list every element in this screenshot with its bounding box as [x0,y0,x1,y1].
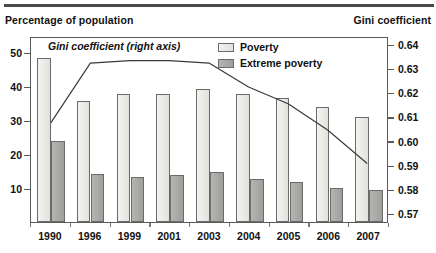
y-axis-tick-right-0.57 [388,214,394,215]
legend-label-poverty: Poverty [240,41,279,53]
legend-label-extreme-poverty: Extreme poverty [240,57,322,69]
x-axis-tick-0 [30,223,31,227]
y-axis-tick-right-0.64 [388,45,394,46]
y-axis-label-left-40: 40 [4,82,22,93]
y-axis-tick-right-0.59 [388,166,394,167]
x-axis-label-1990: 1990 [30,231,70,242]
y-axis-tick-left-20 [24,155,30,156]
legend-swatch-extreme-poverty-icon [218,59,234,68]
y-axis-tick-right-0.58 [388,190,394,191]
x-axis-label-2003: 2003 [189,231,229,242]
y-axis-tick-left-50 [24,53,30,54]
left-axis-title: Percentage of population [5,14,133,26]
y-axis-label-right-0.61: 0.61 [398,112,418,123]
top-divider-rule [4,4,434,7]
x-axis-tick-3 [149,223,150,227]
x-axis-tick-7 [308,223,309,227]
gini-line-layer [31,38,387,222]
legend-item-poverty: Poverty [218,40,322,54]
x-axis-tick-5 [229,223,230,227]
x-axis-tick-9 [388,223,389,227]
chart-legend: Poverty Extreme poverty [218,40,322,72]
y-axis-label-right-0.57: 0.57 [398,209,418,220]
y-axis-tick-right-0.63 [388,69,394,70]
x-axis-label-2004: 2004 [229,231,269,242]
x-axis-tick-4 [189,223,190,227]
x-axis-label-2001: 2001 [149,231,189,242]
legend-swatch-poverty-icon [218,43,234,52]
x-axis-tick-2 [110,223,111,227]
x-axis-label-2006: 2006 [308,231,348,242]
y-axis-label-right-0.59: 0.59 [398,161,418,172]
x-axis-tick-8 [348,223,349,227]
y-axis-label-right-0.58: 0.58 [398,185,418,196]
legend-item-extreme-poverty: Extreme poverty [218,56,322,70]
y-axis-tick-right-0.60 [388,141,394,142]
y-axis-label-left-10: 10 [4,184,22,195]
x-axis-label-2005: 2005 [269,231,309,242]
y-axis-label-left-50: 50 [4,48,22,59]
x-axis-tick-6 [269,223,270,227]
y-axis-label-right-0.60: 0.60 [398,137,418,148]
y-axis-label-right-0.62: 0.62 [398,88,418,99]
gini-line-annotation: Gini coefficient (right axis) [48,40,180,52]
y-axis-label-left-30: 30 [4,116,22,127]
plot-area [30,37,388,223]
y-axis-tick-left-40 [24,87,30,88]
y-axis-tick-left-30 [24,121,30,122]
y-axis-tick-right-0.61 [388,117,394,118]
x-axis-tick-1 [70,223,71,227]
y-axis-label-left-20: 20 [4,150,22,161]
gini-coefficient-line [51,61,367,164]
x-axis-label-1996: 1996 [70,231,110,242]
y-axis-label-right-0.64: 0.64 [398,40,418,51]
x-axis-label-2007: 2007 [348,231,388,242]
right-axis-title: Gini coefficient [354,14,431,26]
y-axis-label-right-0.63: 0.63 [398,64,418,75]
y-axis-tick-left-10 [24,189,30,190]
x-axis-label-1999: 1999 [110,231,150,242]
chart-figure: Percentage of population Gini coefficien… [0,0,436,253]
y-axis-tick-right-0.62 [388,93,394,94]
